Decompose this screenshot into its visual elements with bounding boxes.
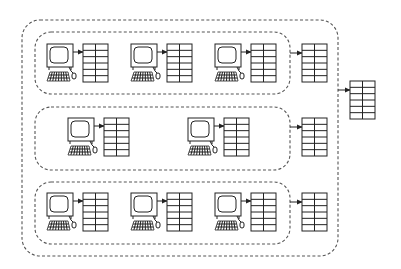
master-table-icon [350, 81, 375, 119]
computer-icon [215, 44, 244, 81]
workstation-table-icon [167, 44, 192, 82]
workstation-table-icon [224, 118, 249, 156]
computer-icon [188, 118, 217, 155]
computer-icon [68, 118, 97, 155]
workstation-table-icon [251, 193, 276, 231]
group-aggregate-table-icon [302, 44, 327, 82]
computer-icon [215, 193, 244, 230]
diagram-svg [0, 0, 401, 269]
computer-icon [131, 44, 160, 81]
computer-icon [47, 44, 76, 81]
workstation-table-icon [167, 193, 192, 231]
computer-icon [47, 193, 76, 230]
computer-icon [131, 193, 160, 230]
group-aggregate-table-icon [302, 118, 327, 156]
workstation-table-icon [251, 44, 276, 82]
workstation-table-icon [83, 193, 108, 231]
diagram-canvas [0, 0, 401, 269]
workstation-table-icon [83, 44, 108, 82]
diagram-layer [22, 20, 375, 256]
group-aggregate-table-icon [302, 193, 327, 231]
workstation-table-icon [104, 118, 129, 156]
